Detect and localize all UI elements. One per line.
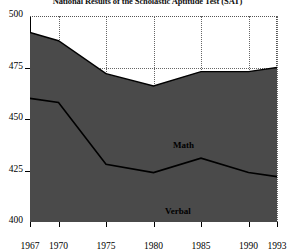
y-axis-label: 450 [0,112,23,122]
x-axis-label: 1980 [138,241,170,251]
plot-area: 400425450475500 196719701975198019851990… [30,16,277,222]
x-axis-tick [249,222,250,227]
y-axis-tick [25,119,30,120]
x-axis-tick [154,222,155,227]
series-label-math: Math [173,140,194,150]
math-area-path [30,32,277,222]
series-label-verbal: Verbal [165,206,191,216]
x-axis-label: 1967 [14,241,46,251]
x-axis-tick [277,222,278,227]
x-axis-tick [201,222,202,227]
gridline-vertical [277,16,278,222]
x-axis-label: 1985 [185,241,217,251]
x-axis-label: 1970 [43,241,75,251]
y-axis-label: 425 [0,164,23,174]
y-axis-label: 475 [0,61,23,71]
x-axis-tick [30,222,31,227]
x-axis-label: 1990 [233,241,265,251]
series-paths [30,16,277,222]
x-axis-label: 1993 [261,241,293,251]
y-axis-tick [25,68,30,69]
x-axis-tick [106,222,107,227]
x-axis-label: 1975 [90,241,122,251]
y-axis-label: 400 [0,215,23,225]
chart-title: National Results of the Scholastic Aptit… [0,0,295,6]
y-axis-tick [25,171,30,172]
y-axis-label: 500 [0,9,23,19]
x-axis-tick [59,222,60,227]
